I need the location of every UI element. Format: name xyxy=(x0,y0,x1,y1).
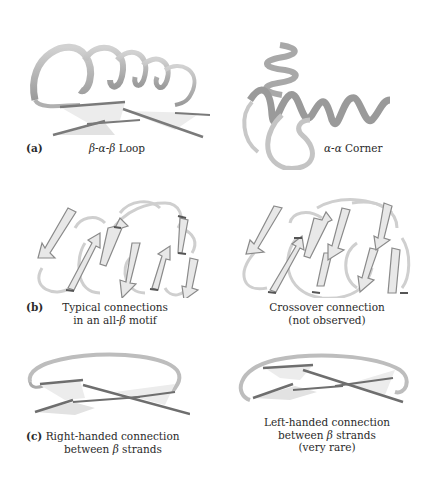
panel-a-tag: (a) xyxy=(26,142,43,155)
panel-b: (b) Typical connections in an all-β moti… xyxy=(0,170,435,330)
caption-text: between xyxy=(64,443,113,455)
caption-line-2: between β strands xyxy=(262,429,392,442)
caption-text: in an all- xyxy=(73,314,119,326)
alpha-alpha-corner-caption: α-α Corner xyxy=(324,142,382,155)
caption-line-1: (c) Right-handed connection xyxy=(26,430,179,443)
caption-line-2: in an all-β motif xyxy=(60,314,170,327)
caption-text: Loop xyxy=(115,142,145,154)
left-handed-connection-illustration xyxy=(235,350,410,405)
right-handed-connection-illustration xyxy=(25,350,190,420)
caption-line-1: Crossover connection xyxy=(262,301,392,314)
caption-line-2: between β strands xyxy=(26,443,179,456)
caption-text: strands xyxy=(333,429,376,441)
typical-connections-caption: Typical connections in an all-β motif xyxy=(60,301,170,326)
caption-line-3: (very rare) xyxy=(262,441,392,454)
caption-text: motif xyxy=(126,314,157,326)
crossover-connection-illustration xyxy=(232,198,417,298)
all-beta-typical-connections-illustration xyxy=(20,198,205,298)
caption-line-1: Left-handed connection xyxy=(262,416,392,429)
caption-text: Corner xyxy=(342,142,383,154)
caption-text: strands xyxy=(119,443,162,455)
caption-text: Right-handed connection xyxy=(46,430,180,442)
panel-a: (a) β-α-β Loop α-α Corner xyxy=(0,0,435,170)
panel-b-tag: (b) xyxy=(26,301,43,314)
beta-alpha-beta-loop-illustration xyxy=(25,35,210,140)
caption-line-2: (not observed) xyxy=(262,314,392,327)
panel-c-tag: (c) xyxy=(26,430,42,442)
left-handed-connection-caption: Left-handed connection between β strands… xyxy=(262,416,392,454)
caption-italic: α-α xyxy=(324,142,342,154)
caption-text: between xyxy=(278,429,327,441)
beta-alpha-beta-loop-caption: β-α-β Loop xyxy=(89,142,145,155)
caption-line-1: Typical connections xyxy=(60,301,170,314)
right-handed-connection-caption: (c) Right-handed connection between β st… xyxy=(26,430,179,455)
crossover-connection-caption: Crossover connection (not observed) xyxy=(262,301,392,326)
panel-c: (c) Right-handed connection between β st… xyxy=(0,330,435,491)
caption-italic: β-α-β xyxy=(89,142,115,154)
